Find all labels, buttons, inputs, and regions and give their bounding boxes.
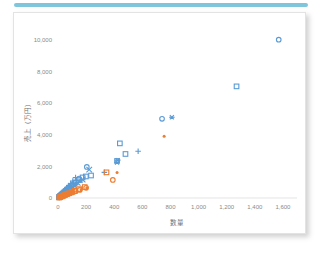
data-point-circle <box>111 178 116 183</box>
x-tick-label: 800 <box>165 204 176 210</box>
data-markers-group <box>56 37 281 200</box>
data-point-circle <box>160 117 165 122</box>
accent-bar <box>14 3 308 7</box>
data-point-square <box>234 84 239 89</box>
series-square-blue <box>57 84 239 199</box>
x-tick-label: 1,600 <box>275 204 291 210</box>
data-point-circle <box>276 37 281 42</box>
series-circle-blue <box>57 37 281 199</box>
data-point-asterisk <box>169 115 175 119</box>
x-tick-label: 400 <box>109 204 120 210</box>
data-point-dot <box>80 188 83 191</box>
y-tick-label: 8,000 <box>37 69 53 75</box>
scatter-chart[interactable]: 02004006008001,0001,2001,4001,60002,0004… <box>14 13 305 233</box>
y-tick-label: 6,000 <box>37 100 53 106</box>
chart-card: 02004006008001,0001,2001,4001,60002,0004… <box>13 12 306 234</box>
y-tick-label: 4,000 <box>37 132 53 138</box>
data-point-plus <box>135 148 141 154</box>
y-tick-label: 10,000 <box>34 37 53 43</box>
x-tick-label: 600 <box>137 204 148 210</box>
x-tick-label: 200 <box>81 204 92 210</box>
x-axis-title: 数量 <box>170 218 184 227</box>
data-point-dot <box>75 190 78 193</box>
y-tick-label: 2,000 <box>37 164 53 170</box>
data-point-dot <box>116 171 119 174</box>
data-point-dot <box>85 187 88 190</box>
data-point-dot <box>163 135 166 138</box>
x-tick-label: 1,200 <box>219 204 235 210</box>
y-tick-label: 0 <box>49 195 53 201</box>
x-tick-label: 1,400 <box>247 204 263 210</box>
x-tick-label: 1,000 <box>191 204 207 210</box>
y-axis-title: 売上（万円） <box>23 100 32 142</box>
x-tick-label: 0 <box>56 204 60 210</box>
data-point-dot <box>58 196 61 199</box>
plot-area: 02004006008001,0001,2001,4001,60002,0004… <box>14 13 305 233</box>
data-point-dot <box>72 191 75 194</box>
data-point-square <box>123 152 128 157</box>
data-point-square <box>118 141 123 146</box>
data-point-square <box>89 173 94 178</box>
